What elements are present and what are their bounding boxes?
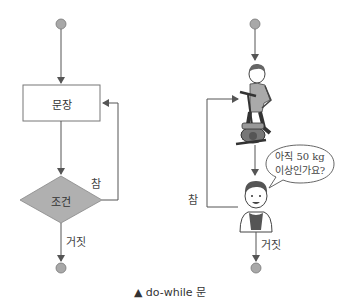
right-illustration <box>207 19 334 273</box>
person-portrait-icon <box>240 181 272 232</box>
start-node-right <box>250 19 260 29</box>
speech-bubble-text: 아직 50 kg 이상인가요? <box>266 150 334 178</box>
condition-label: 조건 <box>20 193 102 209</box>
start-node <box>56 19 66 29</box>
true-loop-arrow <box>102 103 118 200</box>
true-label-left: 참 <box>91 175 101 191</box>
true-label-right: 참 <box>188 191 198 207</box>
end-node-right <box>251 263 261 273</box>
speech-line-1: 아직 50 kg <box>266 150 334 164</box>
speech-line-2: 이상인가요? <box>266 164 334 178</box>
exercise-bike-person-icon <box>236 64 271 144</box>
process-label: 문장 <box>23 96 100 112</box>
caption-text: do-while 문 <box>146 286 206 299</box>
end-node <box>56 263 66 273</box>
figure-caption: ▲ do-while 문 <box>0 283 340 299</box>
true-loop-arrow-right <box>207 99 238 207</box>
false-label-left: 거짓 <box>66 233 86 249</box>
false-label-right: 거짓 <box>261 236 281 252</box>
triangle-marker-icon: ▲ <box>134 286 142 299</box>
